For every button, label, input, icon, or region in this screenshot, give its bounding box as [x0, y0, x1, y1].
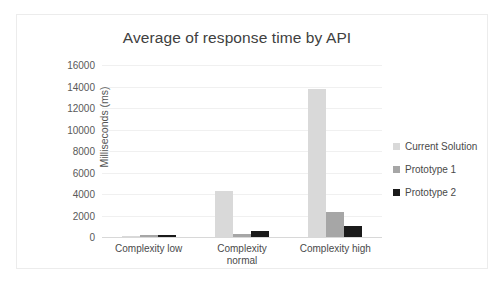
- legend-label: Prototype 2: [405, 187, 456, 198]
- bar[interactable]: [122, 236, 140, 238]
- bar[interactable]: [158, 235, 176, 237]
- bar-group: [102, 65, 195, 237]
- legend-item[interactable]: Current Solution: [393, 141, 477, 152]
- y-tick-label-6000: 6000: [73, 167, 95, 178]
- bar[interactable]: [233, 234, 251, 237]
- y-tick-label-2000: 2000: [73, 210, 95, 221]
- chart-frame: Average of response time by API 16000140…: [16, 14, 488, 269]
- legend-label: Prototype 1: [405, 164, 456, 175]
- bar[interactable]: [308, 89, 326, 237]
- bar[interactable]: [326, 212, 344, 237]
- y-tick-label-4000: 4000: [73, 189, 95, 200]
- y-tick-label-14000: 14000: [67, 81, 95, 92]
- legend-swatch-icon: [393, 189, 400, 196]
- legend-swatch-icon: [393, 166, 400, 173]
- bar[interactable]: [215, 191, 233, 237]
- chart-title: Average of response time by API: [17, 29, 457, 47]
- bar-group: [289, 65, 382, 237]
- chart-legend: Current SolutionPrototype 1Prototype 2: [393, 141, 477, 198]
- bar-group: [195, 65, 288, 237]
- y-tick-label-10000: 10000: [67, 124, 95, 135]
- x-axis-label: Complexity high: [275, 243, 396, 255]
- plot-area: 1600014000120001000080006000400020000 Co…: [102, 65, 382, 237]
- y-tick-label-0: 0: [89, 232, 95, 243]
- bar[interactable]: [140, 235, 158, 237]
- legend-item[interactable]: Prototype 2: [393, 187, 477, 198]
- gridline-0: [102, 237, 382, 238]
- bar[interactable]: [344, 226, 362, 237]
- y-tick-label-8000: 8000: [73, 146, 95, 157]
- y-tick-label-12000: 12000: [67, 103, 95, 114]
- legend-label: Current Solution: [405, 141, 477, 152]
- y-axis-title: Milliseconds (ms): [98, 67, 110, 187]
- legend-item[interactable]: Prototype 1: [393, 164, 477, 175]
- y-tick-label-16000: 16000: [67, 60, 95, 71]
- bar[interactable]: [251, 231, 269, 237]
- legend-swatch-icon: [393, 143, 400, 150]
